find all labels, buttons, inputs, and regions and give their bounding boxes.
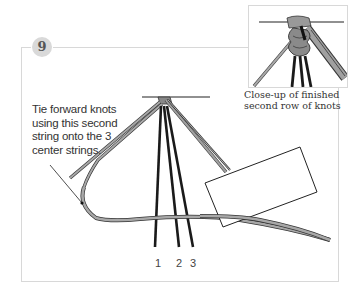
strand-1 — [155, 106, 161, 247]
strand-label-1: 1 — [155, 257, 161, 269]
inset-caption-line2: second row of knots — [244, 100, 360, 111]
inset-caption-line1: Close-up of finished — [244, 89, 360, 100]
inset-caption: Close-up of finished second row of knots — [244, 89, 360, 111]
instruction-text: Tie forward knots using this second stri… — [32, 103, 142, 157]
closeup-illustration — [249, 6, 347, 87]
strand-label-3: 3 — [190, 257, 196, 269]
closeup-inset — [248, 5, 348, 88]
strand-label-2: 2 — [176, 257, 182, 269]
